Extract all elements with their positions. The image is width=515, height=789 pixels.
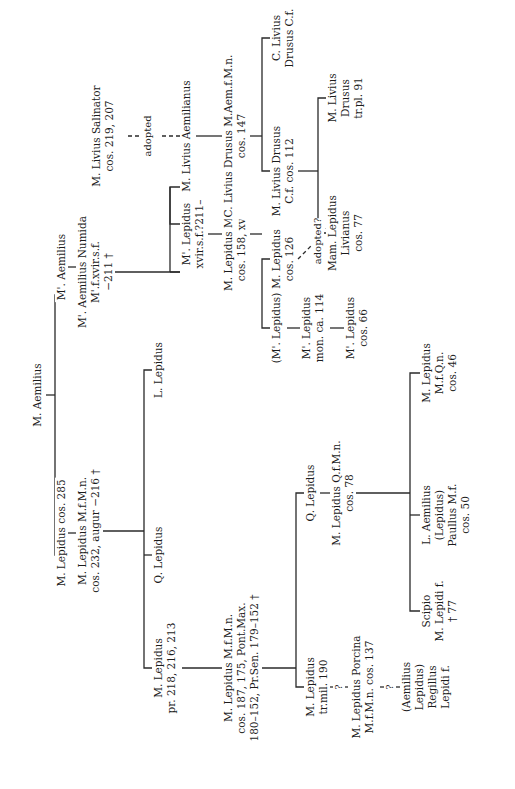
person-m-livius-salinator: M. Livius Salinator cos. 219, 207 — [90, 83, 116, 188]
person-m-lepidus-cos-126: M. Lepidus cos. 126 — [270, 227, 296, 291]
person-m-lepidus-cos-187: M. Lepidus M.f.M.n. cos. 187, 175, Pont.… — [222, 592, 261, 743]
person-c-livius-drusus-cos-147: C. Livius Drusus M.Aem.f.M.n. cos. 147 — [222, 53, 248, 220]
person-m-aemilius: M. Aemilius — [31, 361, 44, 428]
person-m-livius-drusus-cos-112: M. Livius Drusus C.f. cos. 112 — [270, 124, 296, 218]
adopted-label: adopted — [142, 115, 154, 156]
uncertain-mark: ? — [333, 684, 345, 689]
person-m-aemilius-2: M'. Aemilius — [55, 232, 68, 302]
connector — [296, 493, 304, 687]
person-mam-lepidus-livianus: Mam. Lepidus Livianus cos. 77 — [326, 193, 365, 273]
person-m-lepidus-cos-232: M. Lepidus M.f.M.n. cos. 232, augur −216… — [76, 467, 102, 594]
person-m-lepidus-cos-285: M. Lepidus cos. 285 — [55, 477, 68, 588]
person-l-lepidus: L. Lepidus — [152, 340, 165, 400]
connector — [318, 98, 326, 233]
person-m-lepidus-mon: M'. Lepidus mon. ca. 114 — [300, 292, 326, 365]
person-m-lepidus-trmil: M. Lepidus tr.mil. 190 — [304, 655, 330, 719]
person-m-lepidus-cos-78: M. Lepidus Q.f.M.n. cos. 78 — [330, 438, 356, 547]
connector — [262, 38, 270, 171]
connector — [144, 370, 152, 668]
family-tree-diagram: M. Aemilius M. Lepidus cos. 285 M'. Aemi… — [0, 0, 515, 789]
person-m-lepidus-xvir: M'. Lepidus xvir.s.f.?211– — [180, 198, 206, 271]
person-m-lepidus-paren: (M'. Lepidus) — [270, 291, 283, 366]
uncertain-mark-2: ? — [384, 684, 396, 689]
connector — [410, 373, 420, 611]
person-m-lepidus-cos-46: M. Lepidus M.f.Q.n. cos. 46 — [420, 341, 459, 405]
person-m-lepidus-porcina: M. Lepidus Porcina M.f.M.n. cos. 137 — [350, 633, 376, 740]
person-m-livius-drusus-tr-pl: M. Livius Drusus tr.pl. 91 — [326, 71, 365, 124]
person-m-lepidus-cos-66: M'. Lepidus cos. 66 — [344, 295, 370, 361]
adopted-question-label: adopted? — [312, 218, 324, 264]
person-l-aemilius-paullus: L. Aemilius (Lepidus) Paullus M.f. cos. … — [420, 482, 472, 549]
person-scipio: Scipio M. Lepidi f. † 77 — [420, 579, 459, 644]
person-q-lepidus-2: Q. Lepidus — [304, 463, 317, 524]
person-m-lepidus-pr: M. Lepidus pr. 218, 216, 213 — [152, 621, 178, 716]
connector — [262, 259, 270, 328]
person-m-aemilius-numida: M'. Aemilius Numida M'.f.xvir.s.f. −211 … — [76, 214, 115, 330]
person-q-lepidus: Q. Lepidus — [152, 525, 165, 586]
person-m-livius-aemilianus: M. Livius Aemilianus — [180, 78, 193, 194]
person-c-livius-drusus-cf: C. Livius Drusus C.f. — [270, 7, 296, 70]
connector — [170, 187, 180, 224]
person-aemilius-regillus: (Aemilius Lepidus) Regillus Lepidi f. — [400, 660, 452, 714]
